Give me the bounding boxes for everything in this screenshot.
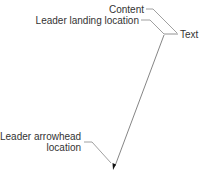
arrowhead-label-line1: Leader arrowhead [0, 131, 81, 142]
arrowhead-callout-line [84, 142, 111, 163]
text-label: Text [180, 29, 198, 40]
leader-line [115, 35, 164, 166]
content-label: Content [96, 4, 144, 15]
landing-callout-line [141, 20, 164, 34]
arrowhead-label-line2: location [0, 142, 81, 153]
leader-landing-label: Leader landing location [20, 15, 139, 26]
leader-diagram: Content Leader landing location Text Lea… [0, 0, 204, 175]
